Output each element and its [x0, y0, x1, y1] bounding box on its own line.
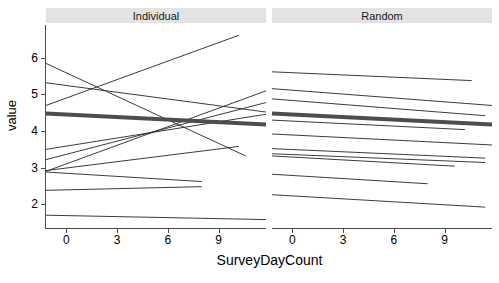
- x-axis-title: SurveyDayCount: [40, 252, 499, 268]
- facet-plot-area: [272, 25, 492, 229]
- y-tick-label: 3: [16, 161, 38, 175]
- trend-line: [272, 89, 492, 106]
- x-tick-mark: [168, 229, 169, 233]
- trend-line: [46, 83, 266, 112]
- facet-strip-label: Random: [272, 8, 492, 23]
- x-tick-label: 3: [114, 233, 121, 247]
- facet-label-text: Individual: [133, 10, 179, 22]
- x-tick-mark: [66, 229, 67, 233]
- trend-line: [272, 174, 428, 184]
- y-axis-title: value: [2, 0, 22, 230]
- x-tick-mark: [394, 229, 395, 233]
- trend-line: [46, 215, 266, 219]
- x-tick-label: 9: [215, 233, 222, 247]
- y-tick-label: 5: [16, 87, 38, 101]
- trend-line: [272, 72, 472, 81]
- facet-label-text: Random: [361, 10, 403, 22]
- facet-line-chart: value SurveyDayCount 23456 03690369 Indi…: [0, 0, 499, 283]
- trend-line: [272, 134, 492, 145]
- y-tick-label: 4: [16, 124, 38, 138]
- facet-strip-label: Individual: [46, 8, 266, 23]
- y-tick-label: 2: [16, 197, 38, 211]
- trend-line: [272, 149, 485, 159]
- x-tick-label: 6: [391, 233, 398, 247]
- x-tick-mark: [445, 229, 446, 233]
- x-tick-label: 9: [441, 233, 448, 247]
- x-tick-mark: [117, 229, 118, 233]
- trend-line: [46, 91, 266, 171]
- trend-line: [272, 195, 485, 207]
- trend-line: [46, 187, 202, 191]
- x-tick-mark: [219, 229, 220, 233]
- x-tick-label: 0: [63, 233, 70, 247]
- average-trend-line: [272, 114, 492, 125]
- x-tick-mark: [292, 229, 293, 233]
- x-tick-label: 0: [289, 233, 296, 247]
- y-tick-label: 6: [16, 51, 38, 65]
- trend-line: [46, 172, 202, 182]
- trend-line: [46, 146, 239, 170]
- x-tick-mark: [343, 229, 344, 233]
- x-tick-label: 3: [340, 233, 347, 247]
- facet-plot-area: [46, 25, 266, 229]
- trend-line: [46, 35, 239, 105]
- x-tick-label: 6: [165, 233, 172, 247]
- average-trend-line: [46, 114, 266, 125]
